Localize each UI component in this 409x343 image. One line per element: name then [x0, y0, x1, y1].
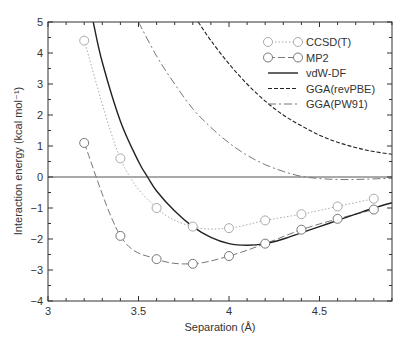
data-point-marker [261, 239, 270, 248]
data-point-marker [297, 210, 306, 219]
legend-item: CCSD(T) [264, 36, 352, 48]
legend-item: vdW-DF [268, 67, 346, 79]
data-point-marker [261, 216, 270, 225]
legend: CCSD(T)MP2vdW-DFGGA(revPBE)GGA(PW91) [264, 36, 376, 110]
legend-item: GGA(revPBE) [268, 83, 375, 95]
legend-label: MP2 [306, 52, 329, 64]
legend-label: GGA(PW91) [306, 98, 368, 110]
legend-label: GGA(revPBE) [306, 83, 375, 95]
legend-label: CCSD(T) [306, 36, 351, 48]
legend-label: vdW-DF [306, 67, 346, 79]
data-point-marker [152, 204, 161, 213]
chart: 33.544.5−4−3−2−1012345 Separation (Å) In… [0, 0, 409, 343]
x-tick-label: 4.5 [312, 305, 327, 317]
y-tick-label: 0 [37, 171, 43, 183]
y-tick-label: 1 [37, 140, 43, 152]
x-axis-label: Separation (Å) [185, 321, 256, 333]
legend-marker [264, 38, 273, 47]
y-tick-label: −2 [30, 233, 43, 245]
x-tick-label: 3.5 [131, 305, 146, 317]
data-point-marker [225, 224, 234, 233]
y-axis-label: Interaction energy (kcal mol⁻¹) [12, 87, 24, 235]
data-point-marker [80, 36, 89, 45]
data-point-marker [152, 255, 161, 264]
legend-marker [294, 38, 303, 47]
data-point-marker [369, 194, 378, 203]
legend-item: MP2 [264, 52, 329, 64]
y-tick-label: −3 [30, 264, 43, 276]
y-tick-label: −1 [30, 202, 43, 214]
x-tick-label: 3 [45, 305, 51, 317]
data-point-marker [333, 214, 342, 223]
data-point-marker [188, 222, 197, 231]
y-tick-label: 4 [37, 47, 43, 59]
legend-marker [264, 53, 273, 62]
data-point-marker [369, 205, 378, 214]
y-tick-label: 3 [37, 78, 43, 90]
series-line-vdw-df [93, 22, 395, 245]
data-point-marker [116, 154, 125, 163]
series-layer [84, 22, 395, 264]
data-point-marker [116, 231, 125, 240]
series-line-mp2 [84, 143, 374, 264]
ticks-layer [48, 22, 392, 301]
y-tick-label: 2 [37, 109, 43, 121]
data-point-marker [188, 259, 197, 268]
legend-item: GGA(PW91) [268, 98, 368, 110]
data-point-marker [80, 138, 89, 147]
x-tick-label: 4 [226, 305, 232, 317]
legend-marker [294, 53, 303, 62]
tick-labels: 33.544.5−4−3−2−1012345 [30, 16, 327, 317]
data-point-marker [333, 202, 342, 211]
data-point-marker [297, 225, 306, 234]
data-point-marker [225, 252, 234, 261]
plot-frame [48, 22, 392, 301]
y-tick-label: 5 [37, 16, 43, 28]
y-tick-label: −4 [30, 295, 43, 307]
